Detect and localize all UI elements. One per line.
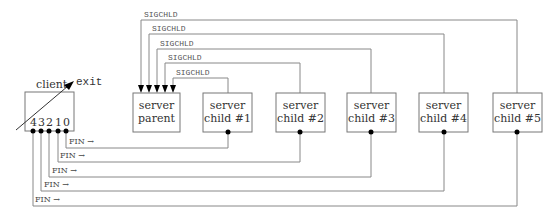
socket-3: 3 — [38, 116, 45, 129]
sigchld-label-5: SIGCHLD — [144, 10, 178, 19]
server-child-4: server child #4 — [419, 93, 468, 135]
svg-text:server: server — [426, 99, 462, 112]
server-child-5: server child #5 — [493, 93, 542, 135]
sigchld-label-3: SIGCHLD — [160, 39, 194, 48]
server-child-2: server child #2 — [276, 93, 325, 135]
sigchld-label-1: SIGCHLD — [176, 68, 210, 77]
client-label: client — [36, 78, 68, 91]
socket-2: 2 — [46, 116, 53, 129]
server-child-1: server child #1 — [203, 93, 252, 135]
diagram-canvas: SIGCHLD SIGCHLD SIGCHLD SIGCHLD SIGCHLD … — [0, 0, 553, 220]
socket-0: 0 — [63, 116, 70, 129]
svg-text:server: server — [354, 99, 390, 112]
server-child-3: server child #3 — [347, 93, 396, 135]
sigchld-label-4: SIGCHLD — [152, 24, 186, 33]
fin-labels: FIN → FIN → FIN → FIN → FIN → — [35, 137, 94, 204]
svg-text:child #5: child #5 — [494, 112, 541, 125]
svg-text:child #2: child #2 — [277, 112, 324, 125]
svg-text:parent: parent — [138, 112, 175, 125]
sigchld-label-2: SIGCHLD — [168, 53, 202, 62]
svg-text:server: server — [500, 99, 536, 112]
server-parent: server parent — [133, 93, 180, 132]
socket-4: 4 — [30, 116, 37, 129]
client-process: client exit 4 3 2 1 0 — [16, 76, 102, 134]
fin-label-3: FIN → — [44, 180, 69, 189]
svg-text:child #3: child #3 — [348, 112, 395, 125]
fin-label-0: FIN → — [69, 137, 94, 146]
fin-connectors — [33, 131, 517, 206]
socket-1: 1 — [55, 116, 62, 129]
svg-text:server: server — [283, 99, 319, 112]
svg-text:server: server — [139, 99, 175, 112]
svg-text:server: server — [210, 99, 246, 112]
svg-text:child #1: child #1 — [204, 112, 251, 125]
fin-label-4: FIN → — [35, 195, 60, 204]
svg-text:child #4: child #4 — [420, 112, 467, 125]
fin-label-2: FIN → — [52, 166, 77, 175]
exit-label: exit — [76, 76, 102, 88]
fin-label-1: FIN → — [60, 151, 85, 160]
